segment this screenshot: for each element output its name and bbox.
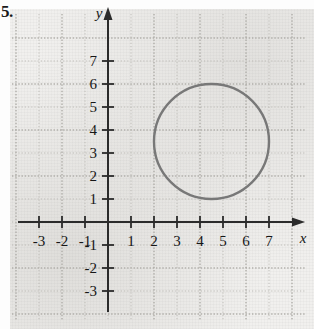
x-axis-tick-labels: -3 -2 -1 1 2 3 4 5 6 7	[33, 233, 274, 249]
x-tick-label: 4	[196, 233, 204, 249]
x-tick-label: -3	[33, 233, 46, 249]
x-tick-label: 6	[242, 233, 250, 249]
x-axis-label: x	[299, 230, 307, 246]
y-axis-arrowhead	[104, 7, 113, 20]
x-tick-label: 5	[219, 233, 227, 249]
y-tick-label: -2	[85, 260, 98, 276]
y-tick-label: -3	[85, 283, 98, 299]
y-tick-label: 4	[90, 122, 98, 138]
problem-number-label: 5.	[1, 2, 13, 22]
x-tick-label: 3	[173, 233, 181, 249]
coordinate-plane-plot: -3 -2 -1 1 2 3 4 5 6 7 7 6 5 4 3 2 1 -1 …	[0, 0, 314, 329]
y-tick-label: 3	[90, 145, 98, 161]
y-tick-label: -1	[85, 237, 98, 253]
y-tick-label: 2	[90, 168, 98, 184]
y-tick-label: 6	[90, 76, 98, 92]
y-tick-label: 7	[90, 53, 98, 69]
x-tick-label: 7	[265, 233, 273, 249]
x-tick-label: 1	[127, 233, 135, 249]
y-tick-label: 5	[90, 99, 98, 115]
y-tick-label: 1	[90, 191, 98, 207]
x-axis-arrowhead	[292, 218, 305, 227]
x-tick-label: 2	[150, 233, 158, 249]
plotted-circle-curve	[154, 84, 269, 199]
x-tick-label: -2	[56, 233, 69, 249]
y-axis-label: y	[94, 5, 103, 21]
figure-container: 5.	[0, 0, 314, 329]
